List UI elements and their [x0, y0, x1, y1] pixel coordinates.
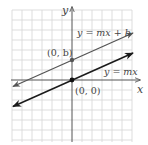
line-label-y-mx-plus-b: y = mx + b [76, 27, 131, 38]
point-label-origin: (0, 0) [75, 85, 101, 96]
y-axis-label: y [61, 4, 69, 17]
point-label-0-b: (0, b) [47, 47, 73, 58]
line-label-y-mx: y = mx [103, 66, 138, 77]
graph-canvas: y x y = mx + b y = mx (0, b) (0, 0) [0, 0, 148, 145]
coordinate-plane-figure: y x y = mx + b y = mx (0, b) (0, 0) [0, 0, 148, 145]
point-origin [70, 78, 75, 83]
x-axis-label: x [137, 83, 144, 96]
point-0-b [70, 58, 74, 62]
